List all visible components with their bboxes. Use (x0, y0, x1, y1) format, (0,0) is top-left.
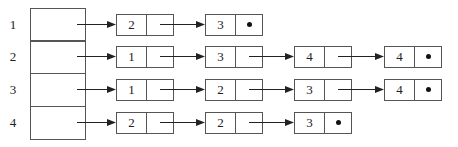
arrows-layer (0, 0, 458, 147)
